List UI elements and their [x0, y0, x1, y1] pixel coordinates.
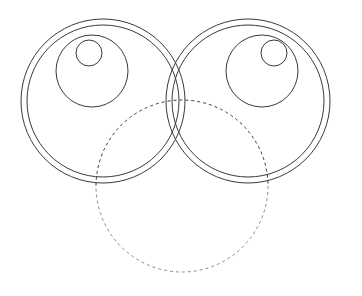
left-outer-ring [21, 19, 185, 183]
left-eye-group [21, 19, 185, 183]
right-inner-ring [172, 25, 324, 177]
right-small-circle [261, 40, 287, 66]
bottom-circle-solid-arc [96, 100, 268, 272]
left-inner-ring [27, 25, 179, 177]
circles-diagram [0, 0, 362, 296]
right-medium-circle [226, 35, 298, 107]
right-eye-group [166, 19, 330, 183]
figure-canvas [0, 0, 362, 296]
left-medium-circle [56, 35, 128, 107]
left-small-circle [76, 40, 102, 66]
bottom-circle-dashed-arc [96, 100, 268, 272]
right-outer-ring [166, 19, 330, 183]
